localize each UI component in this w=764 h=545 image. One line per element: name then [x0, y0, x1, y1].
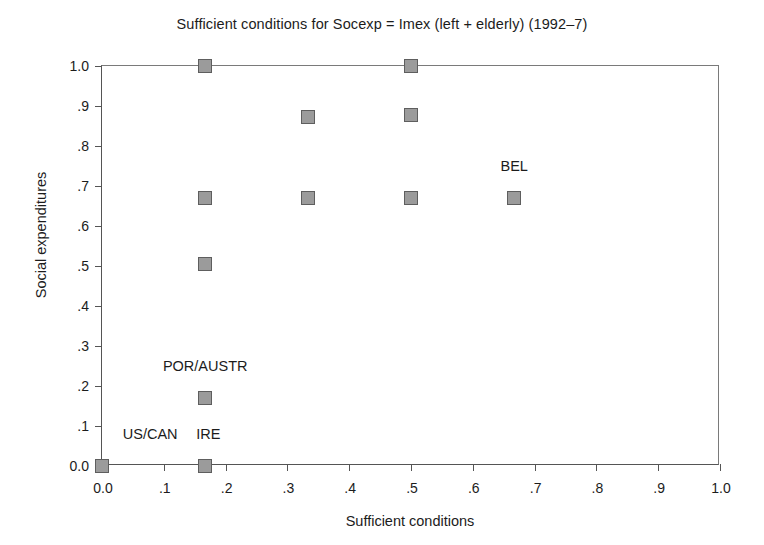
x-tick: .4: [349, 464, 350, 471]
y-tick: .5: [95, 266, 102, 267]
x-tick: .2: [226, 464, 227, 471]
x-tick-label: .9: [653, 480, 665, 496]
data-point-marker: [301, 191, 315, 205]
y-tick-label: .3: [77, 338, 89, 354]
data-point-marker: [198, 191, 212, 205]
y-tick-label: .7: [77, 178, 89, 194]
y-tick: .6: [95, 226, 102, 227]
y-tick: .3: [95, 346, 102, 347]
y-tick: .4: [95, 306, 102, 307]
data-point-marker: [301, 110, 315, 124]
x-tick-label: 0.0: [93, 480, 112, 496]
data-point-marker: [507, 191, 521, 205]
chart-title: Sufficient conditions for Socexp = Imex …: [0, 16, 764, 32]
x-tick: .6: [473, 464, 474, 471]
x-tick: .5: [411, 464, 412, 471]
x-tick: .3: [287, 464, 288, 471]
x-tick-label: .5: [406, 480, 418, 496]
data-point-marker: [95, 459, 109, 473]
data-point-marker: [198, 391, 212, 405]
y-tick: .7: [95, 186, 102, 187]
y-tick-label: 0.0: [70, 458, 89, 474]
x-tick: 1.0: [720, 464, 721, 471]
y-tick-label: .2: [77, 378, 89, 394]
data-point-marker: [198, 59, 212, 73]
x-tick-label: .2: [221, 480, 233, 496]
x-tick: .1: [164, 464, 165, 471]
x-tick: .9: [658, 464, 659, 471]
x-tick-label: .1: [159, 480, 171, 496]
y-tick: .2: [95, 386, 102, 387]
scatter-chart-figure: Sufficient conditions for Socexp = Imex …: [0, 0, 764, 545]
plot-area: 0.0.1.2.3.4.5.6.7.8.91.0 0.0.1.2.3.4.5.6…: [101, 65, 719, 465]
y-tick-label: .5: [77, 258, 89, 274]
y-tick-label: .6: [77, 218, 89, 234]
y-tick: .9: [95, 106, 102, 107]
x-axis-title: Sufficient conditions: [101, 513, 719, 529]
y-tick: .8: [95, 146, 102, 147]
data-point-marker: [404, 191, 418, 205]
y-tick-label: .4: [77, 298, 89, 314]
x-tick: .8: [596, 464, 597, 471]
x-tick-label: .4: [344, 480, 356, 496]
x-tick-label: .3: [283, 480, 295, 496]
y-tick-label: .9: [77, 98, 89, 114]
point-label: BEL: [500, 158, 527, 174]
x-tick-label: .8: [592, 480, 604, 496]
x-tick-label: .6: [468, 480, 480, 496]
data-point-marker: [198, 459, 212, 473]
y-tick-label: 1.0: [70, 58, 89, 74]
y-tick-label: .8: [77, 138, 89, 154]
data-point-marker: [404, 108, 418, 122]
x-tick-label: .7: [530, 480, 542, 496]
point-label: IRE: [196, 426, 220, 442]
x-tick: .7: [535, 464, 536, 471]
y-tick: 1.0: [95, 66, 102, 67]
x-tick-label: 1.0: [711, 480, 730, 496]
data-point-marker: [198, 257, 212, 271]
point-label: US/CAN: [123, 426, 178, 442]
point-label: POR/AUSTR: [163, 358, 248, 374]
data-point-marker: [404, 59, 418, 73]
y-tick: .1: [95, 426, 102, 427]
y-axis-title: Social expenditures: [33, 75, 49, 395]
y-tick-label: .1: [77, 418, 89, 434]
